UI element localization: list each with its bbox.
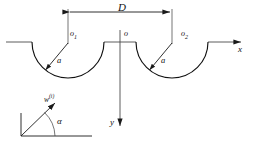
label-axis-x: x — [238, 45, 242, 54]
label-origin-right-subscript: 2 — [185, 34, 188, 40]
diagram-svg — [0, 0, 255, 142]
label-origin-center: o — [124, 30, 128, 38]
incident-angle-arc — [45, 113, 56, 137]
label-incident-wave: w(i) — [44, 94, 54, 103]
cavity-arc-left — [32, 42, 104, 78]
label-origin-left-subscript: 1 — [74, 34, 77, 40]
label-origin-left: o1 — [70, 30, 77, 40]
figure-container: D o1 o o2 a a x y w(i) α — [0, 0, 255, 142]
label-axis-y: y — [110, 118, 114, 127]
label-radius-left: a — [57, 56, 61, 65]
label-incident-angle: α — [57, 117, 62, 126]
label-radius-right: a — [161, 56, 165, 65]
cavity-arc-right — [136, 42, 208, 78]
label-incident-wave-superscript: (i) — [49, 93, 54, 99]
label-origin-right: o2 — [181, 30, 188, 40]
label-separation-D: D — [118, 2, 126, 13]
